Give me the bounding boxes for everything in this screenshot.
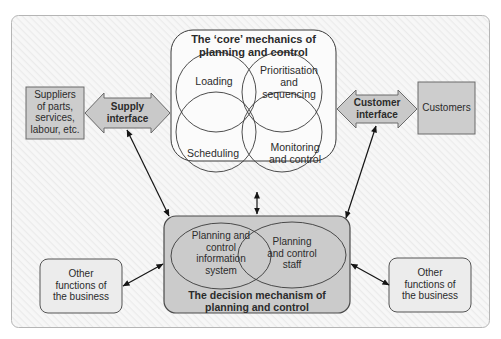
label-scheduling-text: Scheduling bbox=[180, 147, 246, 159]
label-prioritisation-1: Prioritisation bbox=[254, 64, 324, 76]
decision-title-line1: The decision mechanism of bbox=[164, 289, 350, 301]
other-right-line2: functions of bbox=[389, 279, 471, 291]
label-prioritisation-2: and bbox=[254, 76, 324, 88]
other-right-label: Other functions of the business bbox=[389, 267, 471, 302]
customer-interface-line2: interface bbox=[352, 109, 402, 121]
other-left-line1: Other bbox=[40, 268, 122, 280]
info-line3: information bbox=[176, 253, 266, 265]
label-monitoring: Monitoring and control bbox=[262, 141, 328, 165]
other-left-line3: the business bbox=[40, 291, 122, 303]
info-line4: system bbox=[176, 265, 266, 277]
suppliers-line1: Suppliers bbox=[26, 89, 84, 101]
label-monitoring-1: Monitoring bbox=[262, 141, 328, 153]
customer-interface-line1: Customer bbox=[352, 97, 402, 109]
customer-interface-label: Customer interface bbox=[352, 97, 402, 120]
supply-interface-line2: interface bbox=[104, 113, 151, 125]
label-loading: Loading bbox=[186, 75, 242, 87]
supply-interface-line1: Supply bbox=[104, 101, 151, 113]
info-system-label: Planning and control information system bbox=[176, 230, 266, 276]
suppliers-line4: labour, etc. bbox=[26, 124, 84, 136]
staff-line2: and control bbox=[262, 248, 322, 260]
core-title-line1: The ‘core’ mechanics of bbox=[171, 33, 336, 46]
supply-interface-label: Supply interface bbox=[104, 101, 151, 124]
label-monitoring-2: and control bbox=[262, 153, 328, 165]
core-title-line2: planning and control bbox=[171, 46, 336, 59]
label-scheduling: Scheduling bbox=[180, 147, 246, 159]
core-title: The ‘core’ mechanics of planning and con… bbox=[171, 33, 336, 58]
suppliers-label: Suppliers of parts, services, labour, et… bbox=[26, 89, 84, 135]
staff-line1: Planning bbox=[262, 236, 322, 248]
suppliers-line2: of parts, bbox=[26, 101, 84, 113]
other-left-line2: functions of bbox=[40, 280, 122, 292]
label-loading-text: Loading bbox=[186, 75, 242, 87]
suppliers-line3: services, bbox=[26, 112, 84, 124]
info-line2: control bbox=[176, 242, 266, 254]
staff-line3: staff bbox=[262, 259, 322, 271]
other-right-line1: Other bbox=[389, 267, 471, 279]
label-prioritisation: Prioritisation and sequencing bbox=[254, 64, 324, 100]
customers-text: Customers bbox=[418, 102, 475, 114]
other-left-label: Other functions of the business bbox=[40, 268, 122, 303]
customers-label: Customers bbox=[418, 102, 475, 114]
other-right-line3: the business bbox=[389, 290, 471, 302]
info-line1: Planning and bbox=[176, 230, 266, 242]
decision-title: The decision mechanism of planning and c… bbox=[164, 289, 350, 313]
staff-label: Planning and control staff bbox=[262, 236, 322, 271]
label-prioritisation-3: sequencing bbox=[254, 88, 324, 100]
decision-title-line2: planning and control bbox=[164, 301, 350, 313]
